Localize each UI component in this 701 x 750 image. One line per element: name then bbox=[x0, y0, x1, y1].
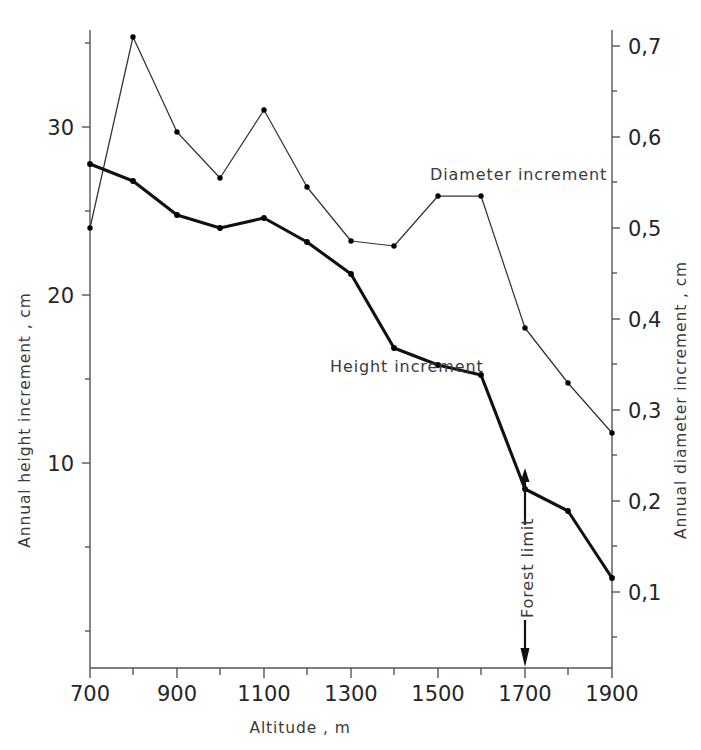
marker-point bbox=[304, 239, 310, 245]
right-tick-label-0p2: 0,2 bbox=[628, 490, 661, 514]
marker-point bbox=[478, 193, 483, 198]
x-tick-label-1700: 1700 bbox=[498, 682, 551, 706]
x-tick-label-1100: 1100 bbox=[237, 682, 290, 706]
figure-chart-annual-increment-vs-altitude: 30 20 10 0,7 0,6 0,5 0,4 0,3 bbox=[0, 0, 701, 750]
marker-point bbox=[261, 107, 266, 112]
marker-point bbox=[87, 225, 92, 230]
right-tick-label-0p1: 0,1 bbox=[628, 581, 661, 605]
marker-point bbox=[348, 238, 353, 243]
left-tick-label-10: 10 bbox=[47, 452, 74, 476]
marker-point bbox=[565, 508, 571, 514]
marker-point bbox=[130, 34, 135, 39]
forest-limit-label: Forest limit bbox=[518, 518, 537, 618]
right-tick-label-0p7: 0,7 bbox=[628, 35, 661, 59]
marker-point bbox=[87, 161, 93, 167]
right-tick-label-0p5: 0,5 bbox=[628, 217, 661, 241]
marker-point bbox=[217, 175, 222, 180]
marker-point bbox=[217, 225, 223, 231]
bottom-axis-title: Altitude , m bbox=[249, 719, 350, 737]
marker-point bbox=[348, 271, 354, 277]
x-tick-label-1900: 1900 bbox=[585, 682, 638, 706]
bottom-axis-ticks bbox=[90, 668, 612, 678]
forest-limit-annotation: Forest limit bbox=[518, 468, 537, 667]
marker-point bbox=[391, 243, 396, 248]
bottom-axis-tick-labels: 700 900 1100 1300 1500 1700 1900 bbox=[70, 682, 639, 706]
forest-limit-upper-arrow-head bbox=[521, 468, 530, 482]
forest-limit-lower-arrow-head bbox=[521, 648, 530, 667]
marker-point bbox=[130, 178, 136, 184]
marker-point bbox=[391, 345, 397, 351]
left-axis-tick-labels: 30 20 10 bbox=[47, 116, 74, 476]
marker-point bbox=[174, 212, 180, 218]
right-tick-label-0p6: 0,6 bbox=[628, 126, 661, 150]
marker-point bbox=[565, 380, 570, 385]
x-tick-label-1300: 1300 bbox=[324, 682, 377, 706]
right-axis-tick-labels: 0,7 0,6 0,5 0,4 0,3 0,2 0,1 bbox=[628, 35, 661, 605]
right-tick-label-0p3: 0,3 bbox=[628, 399, 661, 423]
series-label-height-increment: Height increment bbox=[330, 357, 484, 376]
x-tick-label-1500: 1500 bbox=[411, 682, 464, 706]
right-tick-label-0p4: 0,4 bbox=[628, 308, 661, 332]
x-tick-label-700: 700 bbox=[70, 682, 110, 706]
chart-canvas: 30 20 10 0,7 0,6 0,5 0,4 0,3 bbox=[0, 0, 701, 750]
left-axis-ticks bbox=[82, 43, 90, 631]
marker-point bbox=[261, 215, 267, 221]
left-tick-label-20: 20 bbox=[47, 284, 74, 308]
right-axis-ticks bbox=[612, 46, 620, 637]
marker-point bbox=[609, 575, 615, 581]
marker-point bbox=[435, 193, 440, 198]
marker-point bbox=[174, 129, 179, 134]
left-tick-label-30: 30 bbox=[47, 116, 74, 140]
series-label-diameter-increment: Diameter increment bbox=[430, 165, 607, 184]
marker-point bbox=[522, 325, 527, 330]
right-axis-title: Annual diameter increment , cm bbox=[672, 261, 690, 539]
left-axis-title: Annual height increment , cm bbox=[16, 292, 34, 548]
marker-point bbox=[609, 430, 614, 435]
x-tick-label-900: 900 bbox=[157, 682, 197, 706]
marker-point bbox=[304, 184, 309, 189]
